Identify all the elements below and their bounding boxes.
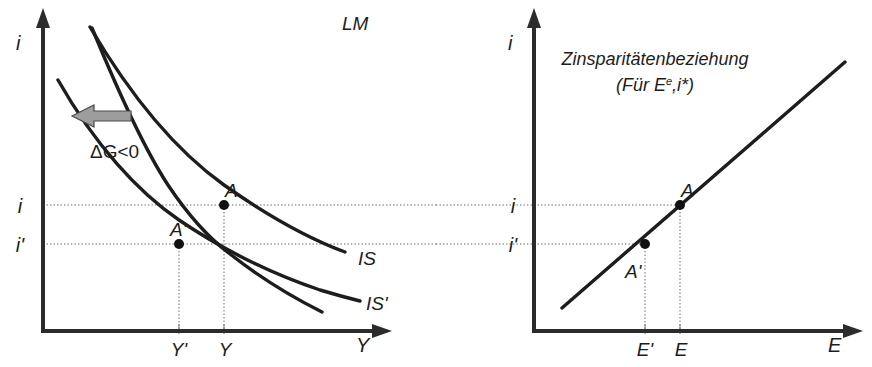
subtitle-suffix: ,i*) [672, 75, 694, 95]
right-xtick-E-prime: E' [637, 339, 655, 360]
left-x-axis-arrow [372, 324, 392, 338]
point-A-prime-dot-left [174, 239, 184, 249]
right-xtick-E: E [675, 339, 688, 360]
right-y-axis-label: i [508, 32, 513, 54]
interest-parity-title: Zinsparitätenbeziehung [560, 49, 748, 69]
leftward-shift-arrow [72, 105, 131, 127]
right-x-axis-arrow [843, 324, 863, 338]
economics-figure: i Y i i' Y' Y LM IS IS' A A' ΔG<0 [0, 0, 872, 367]
left-panel: i Y i i' Y' Y LM IS IS' A A' ΔG<0 [16, 8, 436, 360]
left-x-axis-label: Y [356, 334, 371, 356]
point-label-A-prime-left: A' [169, 219, 188, 240]
left-xtick-Y-prime: Y' [171, 339, 189, 360]
interest-parity-subtitle: (Für Ee,i*) [616, 75, 694, 95]
right-ytick-i-prime: i' [509, 234, 518, 256]
curve-IS [90, 27, 345, 252]
left-y-axis-label: i [16, 32, 21, 54]
point-label-A-left: A [224, 180, 238, 201]
left-ytick-i: i [18, 195, 23, 217]
right-x-axis-label: E [828, 334, 842, 356]
subtitle-prefix: (Für E [616, 75, 667, 95]
left-ytick-i-prime: i' [16, 234, 25, 256]
point-label-A-prime-right: A' [624, 261, 643, 282]
point-label-A-right: A [680, 180, 694, 201]
right-y-axis-arrow [527, 8, 541, 28]
left-xtick-Y: Y [219, 339, 233, 360]
point-A-dot-right [675, 200, 685, 210]
point-A-dot-left [219, 200, 229, 210]
curve-label-IS: IS [358, 248, 376, 269]
curve-interest-parity [562, 62, 845, 308]
right-ytick-i: i [511, 195, 516, 217]
point-A-prime-dot-right [640, 239, 650, 249]
right-panel: i E i i' E' E A A' Zinsparitätenbeziehun… [436, 8, 863, 360]
curve-label-IS-prime: IS' [366, 293, 389, 314]
left-y-axis-arrow [36, 8, 50, 28]
curve-label-LM: LM [342, 13, 369, 34]
shift-annotation-label: ΔG<0 [90, 141, 139, 162]
